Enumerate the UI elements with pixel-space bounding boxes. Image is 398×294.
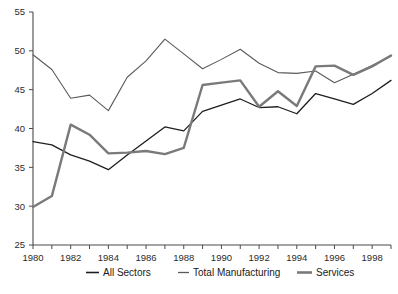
y-tick-label: 25 bbox=[14, 239, 25, 250]
x-tick-label: 1986 bbox=[135, 252, 156, 263]
x-tick-labels: 1980198219841986198819901992199419961998 bbox=[22, 252, 382, 263]
y-tick-label: 55 bbox=[14, 6, 25, 17]
y-tick-label: 50 bbox=[14, 45, 25, 56]
y-tick-labels: 25303540455055 bbox=[14, 6, 25, 250]
x-tick-label: 1988 bbox=[173, 252, 194, 263]
x-tick-label: 1998 bbox=[362, 252, 383, 263]
x-tick-label: 1994 bbox=[286, 252, 307, 263]
y-tick-label: 35 bbox=[14, 162, 25, 173]
legend-label: Total Manufacturing bbox=[193, 267, 280, 278]
x-tick-label: 1990 bbox=[211, 252, 232, 263]
x-tick-marks bbox=[33, 245, 391, 249]
series-line bbox=[33, 55, 391, 206]
x-tick-label: 1992 bbox=[249, 252, 270, 263]
legend-label: All Sectors bbox=[103, 267, 151, 278]
y-tick-label: 30 bbox=[14, 201, 25, 212]
chart-canvas: 25303540455055 1980198219841986198819901… bbox=[0, 0, 398, 294]
x-axis-group: 1980198219841986198819901992199419961998 bbox=[22, 245, 391, 263]
y-tick-label: 45 bbox=[14, 84, 25, 95]
legend-label: Services bbox=[316, 267, 354, 278]
line-chart: 25303540455055 1980198219841986198819901… bbox=[0, 0, 398, 294]
x-tick-label: 1996 bbox=[324, 252, 345, 263]
series-lines bbox=[33, 39, 391, 207]
x-tick-label: 1984 bbox=[98, 252, 119, 263]
y-tick-marks bbox=[29, 12, 33, 245]
chart-legend: All SectorsTotal ManufacturingServices bbox=[86, 267, 354, 278]
x-tick-label: 1982 bbox=[60, 252, 81, 263]
y-axis-group: 25303540455055 bbox=[14, 6, 33, 250]
x-tick-label: 1980 bbox=[22, 252, 43, 263]
series-line bbox=[33, 80, 391, 169]
y-tick-label: 40 bbox=[14, 123, 25, 134]
